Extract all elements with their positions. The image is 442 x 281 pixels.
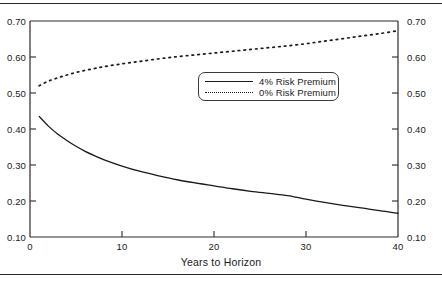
legend-swatch-solid-icon: [205, 81, 253, 84]
series-line-4pct: [39, 116, 398, 213]
figure-container: 0.70 0.60 0.50 0.40 0.30 0.20 0.10 0.70 …: [0, 0, 442, 281]
xtick-label-0: 0: [17, 241, 43, 252]
x-axis-ticks: [122, 231, 306, 237]
ytick-label-left-5: 0.60: [0, 52, 26, 63]
ytick-label-left-3: 0.40: [0, 124, 26, 135]
legend-label-0: 4% Risk Premium: [259, 76, 336, 87]
ytick-label-right-5: 0.60: [407, 52, 437, 63]
ytick-label-right-6: 0.70: [407, 16, 437, 27]
axis-frame: [30, 21, 398, 237]
legend-swatch-dotted-icon: [205, 92, 253, 95]
ytick-label-right-1: 0.20: [407, 196, 437, 207]
xtick-label-4: 40: [385, 241, 411, 252]
xtick-label-1: 10: [109, 241, 135, 252]
ytick-label-right-0: 0.10: [407, 232, 437, 243]
x-axis-title: Years to Horizon: [0, 256, 442, 268]
ytick-label-left-6: 0.70: [0, 16, 26, 27]
chart-plot-area: [0, 0, 442, 281]
ytick-label-left-1: 0.20: [0, 196, 26, 207]
y-axis-ticks-right: [392, 57, 398, 201]
legend-item-0pct: 0% Risk Premium: [205, 87, 335, 99]
ytick-label-right-2: 0.30: [407, 160, 437, 171]
ytick-label-right-3: 0.40: [407, 124, 437, 135]
ytick-label-left-2: 0.30: [0, 160, 26, 171]
ytick-label-right-4: 0.50: [407, 88, 437, 99]
xtick-label-3: 30: [293, 241, 319, 252]
legend-label-1: 0% Risk Premium: [259, 87, 336, 98]
y-axis-ticks-left: [30, 57, 36, 201]
xtick-label-2: 20: [201, 241, 227, 252]
ytick-label-left-4: 0.50: [0, 88, 26, 99]
chart-legend: 4% Risk Premium 0% Risk Premium: [198, 72, 339, 101]
